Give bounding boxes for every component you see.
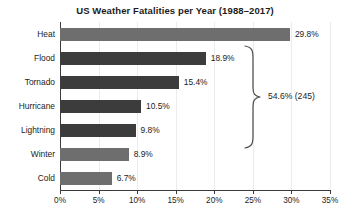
category-label-flood: Flood	[0, 53, 55, 63]
x-tick-label: 25%	[245, 196, 261, 205]
x-tick-label: 10%	[129, 196, 145, 205]
x-tick-label: 0%	[54, 196, 66, 205]
x-tick-label: 30%	[283, 196, 299, 205]
bar-flood[interactable]	[60, 52, 206, 65]
x-tick-label: 35%	[322, 196, 338, 205]
bar-cold[interactable]	[60, 172, 112, 185]
x-tick-label: 5%	[93, 196, 105, 205]
x-tick-mark	[176, 190, 177, 194]
bar-tornado[interactable]	[60, 76, 179, 89]
bar-row: 9.8%	[60, 124, 350, 137]
category-label-cold: Cold	[0, 173, 55, 183]
bar-row: 18.9%	[60, 52, 350, 65]
x-tick-mark	[99, 190, 100, 194]
bar-value-label: 9.8%	[141, 125, 160, 135]
bar-value-label: 15.4%	[184, 77, 208, 87]
bar-row: 6.7%	[60, 172, 350, 185]
bar-value-label: 8.9%	[134, 149, 153, 159]
x-tick-mark	[137, 190, 138, 194]
weather-fatalities-bar-chart: US Weather Fatalities per Year (1988–201…	[0, 0, 350, 222]
x-tick-mark	[60, 190, 61, 194]
x-axis-line	[60, 190, 331, 191]
bar-value-label: 6.7%	[117, 173, 136, 183]
bar-winter[interactable]	[60, 148, 129, 161]
bar-row: 15.4%	[60, 76, 350, 89]
bar-value-label: 10.5%	[146, 101, 170, 111]
bar-row: 10.5%	[60, 100, 350, 113]
bar-row: 29.8%	[60, 28, 350, 41]
chart-title: US Weather Fatalities per Year (1988–201…	[0, 5, 350, 16]
category-label-lightning: Lightning	[0, 125, 55, 135]
category-label-heat: Heat	[0, 29, 55, 39]
category-label-tornado: Tornado	[0, 77, 55, 87]
bar-hurricane[interactable]	[60, 100, 141, 113]
x-tick-mark	[330, 190, 331, 194]
x-tick-label: 20%	[206, 196, 222, 205]
bar-heat[interactable]	[60, 28, 290, 41]
x-tick-mark	[291, 190, 292, 194]
x-tick-label: 15%	[168, 196, 184, 205]
x-tick-mark	[214, 190, 215, 194]
bar-row: 8.9%	[60, 148, 350, 161]
x-tick-mark	[253, 190, 254, 194]
bar-value-label: 29.8%	[295, 29, 319, 39]
category-label-hurricane: Hurricane	[0, 101, 55, 111]
category-label-winter: Winter	[0, 149, 55, 159]
bar-lightning[interactable]	[60, 124, 136, 137]
bar-value-label: 18.9%	[211, 53, 235, 63]
